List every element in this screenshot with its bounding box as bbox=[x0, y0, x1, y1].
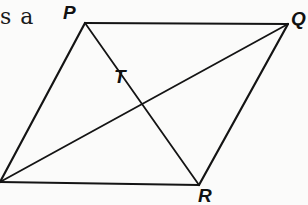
body-text-fragment: s a bbox=[0, 4, 34, 29]
vertex-label-p: P bbox=[63, 3, 76, 22]
edge-pq bbox=[85, 23, 288, 24]
intersection-label-t: T bbox=[114, 67, 126, 86]
edge-rs bbox=[0, 182, 199, 185]
vertex-label-r: R bbox=[198, 186, 212, 205]
figure-canvas: s a P Q R T bbox=[0, 0, 308, 205]
vertex-label-q: Q bbox=[291, 9, 306, 28]
parallelogram-diagram bbox=[0, 0, 308, 205]
